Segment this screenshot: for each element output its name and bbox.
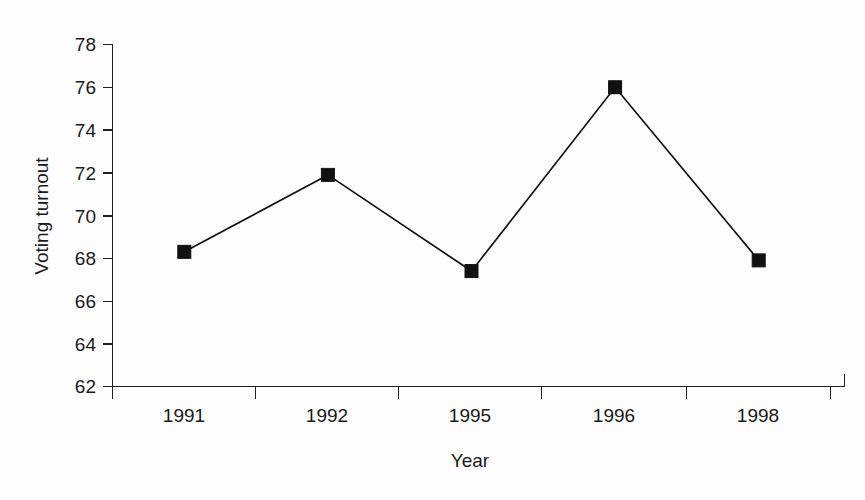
y-tick-label-70: 70 [75, 206, 96, 227]
y-axis-tick-labels: 78 76 74 72 70 68 66 64 62 [75, 34, 97, 397]
y-tick-label-68: 68 [75, 248, 96, 269]
data-point-1998 [752, 254, 765, 267]
line-chart: 78 76 74 72 70 68 66 64 62 1991 1992 199… [0, 0, 865, 500]
data-point-1996 [609, 81, 622, 94]
y-tick-label-64: 64 [75, 334, 97, 355]
x-axis-title: Year [451, 450, 490, 471]
x-tick-label-1992: 1992 [306, 405, 348, 426]
x-tick-label-1995: 1995 [449, 405, 491, 426]
x-tick-label-1991: 1991 [163, 405, 205, 426]
data-point-1991 [178, 245, 191, 258]
data-point-1992 [321, 168, 334, 181]
y-tick-label-62: 62 [75, 376, 96, 397]
y-tick-label-72: 72 [75, 163, 96, 184]
y-tick-label-76: 76 [75, 77, 96, 98]
y-tick-label-78: 78 [75, 34, 96, 55]
y-tick-label-66: 66 [75, 291, 96, 312]
y-tick-label-74: 74 [75, 120, 97, 141]
chart-figure: 78 76 74 72 70 68 66 64 62 1991 1992 199… [0, 0, 865, 500]
y-axis-title: Voting turnout [31, 157, 52, 275]
x-tick-label-1998: 1998 [737, 405, 779, 426]
data-point-1995 [465, 265, 478, 278]
x-tick-label-1996: 1996 [593, 405, 635, 426]
chart-background [0, 0, 865, 500]
